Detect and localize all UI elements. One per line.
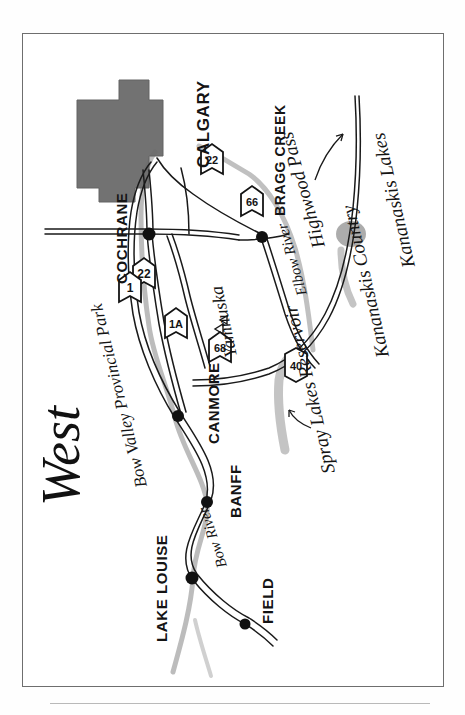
west-stream-wash xyxy=(195,620,211,676)
map-page: 22 1A 1 xyxy=(0,0,465,715)
label-calgary: CALGARY xyxy=(194,80,213,168)
city-dot-lake-louise xyxy=(186,572,199,585)
shield-hwy-66[interactable]: 66 xyxy=(241,186,263,216)
label-field: FIELD xyxy=(259,578,276,624)
city-dot-bragg-creek xyxy=(256,231,268,243)
hwy-68-road-b xyxy=(172,234,210,366)
city-dot-canmore xyxy=(172,410,184,422)
label-bow-valley-provincial-park: Bow Valley Provincial Park xyxy=(87,302,151,490)
cochrane-calgary-link-b xyxy=(149,170,153,234)
calgary-south-loop xyxy=(181,168,189,234)
page-divider-rule xyxy=(50,703,430,704)
label-lake-louise-line1: LAKE LOUISE xyxy=(153,535,170,642)
map-canvas: 22 1A 1 xyxy=(23,34,443,686)
map-drawing: 22 1A 1 xyxy=(23,34,443,686)
label-canmore: CANMORE xyxy=(205,362,222,444)
highwood-pass-arrow xyxy=(315,134,343,180)
shield-hwy-1a[interactable]: 1A xyxy=(165,308,187,338)
label-kananaskis-lakes: Kananaskis Lakes xyxy=(367,131,419,271)
shield-label-66: 66 xyxy=(246,196,258,208)
label-banff: BANFF xyxy=(227,464,244,518)
city-dot-banff xyxy=(201,496,213,508)
map-canvas-wrapper: 22 1A 1 xyxy=(23,34,443,686)
city-dot-field xyxy=(240,619,251,630)
hwy-68-road-a xyxy=(167,236,205,368)
label-cochrane: COCHRANE xyxy=(113,193,130,284)
city-dot-cochrane xyxy=(143,228,156,241)
map-frame: 22 1A 1 xyxy=(22,33,444,687)
shield-label-1a: 1A xyxy=(169,318,183,330)
map-title: West xyxy=(31,404,91,506)
